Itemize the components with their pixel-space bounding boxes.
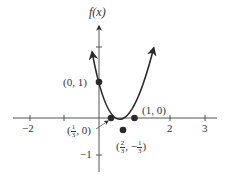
- label-point-vertex: (23, −13): [116, 140, 146, 155]
- label-point-1-0: (1, 0): [142, 105, 166, 116]
- y-axis-label: f(x): [89, 6, 106, 18]
- label-point-1-3-0: (13, 0): [67, 124, 91, 139]
- tick-label-neg1: −1: [80, 149, 92, 160]
- tick-label-2: 2: [167, 123, 173, 134]
- point-vertex: [120, 127, 127, 134]
- function-graph: [0, 0, 226, 182]
- point-1-3-0: [108, 115, 115, 122]
- point-1-0: [131, 115, 138, 122]
- label-point-0-1: (0, 1): [63, 77, 87, 88]
- point-0-1: [96, 79, 103, 86]
- tick-label-3: 3: [202, 123, 208, 134]
- pointer-arrow: [96, 121, 108, 129]
- tick-label-neg2: −2: [22, 123, 34, 134]
